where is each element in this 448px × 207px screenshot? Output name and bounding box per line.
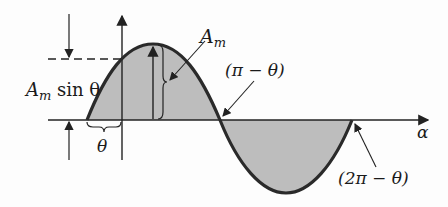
theta-brace — [87, 122, 121, 132]
alpha-axis-label: α — [417, 122, 429, 142]
pi-minus-theta-label: (π − θ) — [225, 60, 285, 80]
pi-theta-leader — [223, 81, 254, 116]
diagram-canvas: Am Am sin θ θ (π − θ) (2π − θ) α — [0, 0, 448, 207]
two-pi-theta-leader — [355, 124, 376, 167]
amp-sin-theta-label: Am sin θ — [24, 79, 100, 103]
sine-diagram: Am Am sin θ θ (π − θ) (2π − θ) α — [0, 0, 448, 207]
theta-label: θ — [97, 136, 107, 156]
two-pi-minus-theta-label: (2π − θ) — [338, 168, 409, 188]
amplitude-label: Am — [198, 25, 226, 50]
